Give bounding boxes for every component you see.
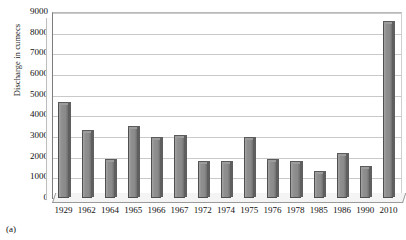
bar-side-face [253, 137, 256, 197]
bar-side-face [184, 135, 187, 197]
bar-series [52, 12, 400, 198]
bar-side-face [276, 159, 279, 197]
x-tick-label: 1972 [191, 205, 214, 215]
bar-slot [360, 12, 370, 198]
bar-side-face [114, 159, 117, 197]
x-tick-label: 1962 [75, 205, 98, 215]
bar-slot [198, 12, 208, 198]
bar[interactable] [360, 168, 370, 198]
x-axis-tick-labels: 1929196219641965196619671972197419751976… [52, 205, 400, 221]
bar-slot [221, 12, 231, 198]
bar-slot [58, 12, 68, 198]
x-tick-label: 1978 [284, 205, 307, 215]
bar[interactable] [337, 155, 347, 198]
bar-slot [314, 12, 324, 198]
bar[interactable] [174, 137, 184, 198]
bar-slot [151, 12, 161, 198]
bar-side-face [346, 153, 349, 197]
bar[interactable] [383, 23, 393, 198]
bar-slot [174, 12, 184, 198]
bar-slot [244, 12, 254, 198]
bar-slot [337, 12, 347, 198]
x-tick-label: 1964 [98, 205, 121, 215]
y-axis-tick-labels: 0100020003000400050006000700080009000 [18, 0, 48, 205]
x-tick-label: 1966 [145, 205, 168, 215]
figure-caption: (a) [6, 224, 16, 234]
x-tick-label: 1975 [238, 205, 261, 215]
x-tick-label: 2010 [377, 205, 400, 215]
bar-slot [267, 12, 277, 198]
bar-side-face [137, 126, 140, 197]
bar-side-face [207, 161, 210, 197]
bar-side-face [300, 161, 303, 197]
bar-slot [128, 12, 138, 198]
bar-side-face [68, 102, 71, 197]
bar[interactable] [244, 139, 254, 198]
bar[interactable] [128, 128, 138, 198]
bar[interactable] [314, 173, 324, 198]
x-tick-label: 1976 [261, 205, 284, 215]
bar[interactable] [58, 104, 68, 198]
bar-side-face [160, 137, 163, 197]
bar-slot [82, 12, 92, 198]
bar-side-face [323, 171, 326, 197]
x-tick-label: 1985 [307, 205, 330, 215]
x-tick-label: 1986 [330, 205, 353, 215]
x-tick-label: 1967 [168, 205, 191, 215]
bar-side-face [369, 166, 372, 197]
bar[interactable] [267, 161, 277, 198]
y-tick-label: 9000 [30, 7, 48, 16]
bar-slot [383, 12, 393, 198]
bar-side-face [392, 21, 395, 197]
bar[interactable] [82, 132, 92, 198]
x-tick-label: 1990 [354, 205, 377, 215]
bar[interactable] [221, 163, 231, 198]
bar[interactable] [151, 139, 161, 198]
bar-slot [105, 12, 115, 198]
bar[interactable] [105, 161, 115, 198]
bar-slot [290, 12, 300, 198]
x-tick-label: 1974 [214, 205, 237, 215]
x-tick-label: 1929 [52, 205, 75, 215]
bar[interactable] [290, 163, 300, 198]
bar-side-face [230, 161, 233, 197]
x-tick-label: 1965 [122, 205, 145, 215]
bar[interactable] [198, 163, 208, 198]
bar-side-face [91, 130, 94, 197]
